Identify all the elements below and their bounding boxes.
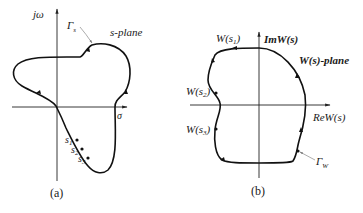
im-axis-label: ImW(s) bbox=[263, 33, 298, 46]
w-plane-label: W(s)-plane bbox=[299, 54, 349, 67]
sigma-label: σ bbox=[117, 110, 123, 121]
gamma-s-leader bbox=[80, 27, 92, 43]
point-w-s2 bbox=[214, 91, 217, 94]
re-axis-label: ReW(s) bbox=[312, 111, 346, 124]
figure: jω σ s-plane Γs s1 s2 s3 (a) ImW(s) ReW(… bbox=[0, 0, 363, 213]
point-s2 bbox=[80, 147, 83, 150]
point-w-s3 bbox=[214, 127, 217, 130]
w-s3-label: W(s3) bbox=[186, 123, 211, 137]
w-s2-label: W(s2) bbox=[186, 85, 211, 99]
gamma-w-label: ΓW bbox=[315, 155, 329, 170]
s3-label: s3 bbox=[78, 153, 86, 166]
point-s3 bbox=[86, 156, 89, 159]
j-omega-label: jω bbox=[31, 8, 44, 20]
caption-b: (b) bbox=[251, 184, 265, 198]
gamma-w-leader bbox=[300, 152, 315, 160]
point-s1 bbox=[75, 138, 78, 141]
caption-a: (a) bbox=[50, 186, 63, 200]
gamma-s-label: Γs bbox=[66, 19, 76, 34]
s-plane-label: s-plane bbox=[110, 26, 143, 38]
panel-b: ImW(s) ReW(s) W(s)-plane W(s1) W(s2) W(s… bbox=[186, 32, 349, 198]
w-s1-label: W(s1) bbox=[216, 32, 241, 46]
panel-a: jω σ s-plane Γs s1 s2 s3 (a) bbox=[12, 8, 143, 200]
contour-gamma-w bbox=[208, 48, 306, 163]
point-gamma-w bbox=[296, 149, 299, 152]
